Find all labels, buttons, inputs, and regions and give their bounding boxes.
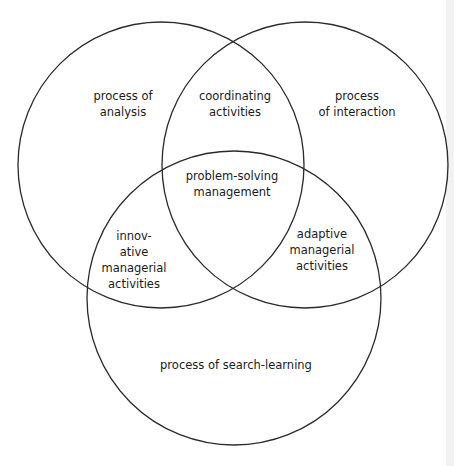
region-search-learning: process of search-learning xyxy=(160,357,312,373)
label-line: adaptive xyxy=(289,226,354,242)
label-line: managerial xyxy=(101,260,166,276)
region-innovative: innov- ative managerial activities xyxy=(101,228,166,292)
label-line: activities xyxy=(289,258,354,274)
label-line: ative xyxy=(101,244,166,260)
label-line: innov- xyxy=(101,228,166,244)
venn-diagram xyxy=(0,0,454,466)
label-line: coordinating xyxy=(199,88,271,104)
label-line: analysis xyxy=(94,104,153,120)
label-line: activities xyxy=(101,276,166,292)
label-line: problem-solving xyxy=(186,168,279,184)
label-line: activities xyxy=(199,104,271,120)
label-line: process of xyxy=(94,88,153,104)
label-line: process of search-learning xyxy=(160,357,312,373)
region-center: problem-solving management xyxy=(186,168,279,200)
label-line: process xyxy=(319,88,396,104)
label-line: management xyxy=(186,184,279,200)
label-line: of interaction xyxy=(319,104,396,120)
region-interaction: process of interaction xyxy=(319,88,396,120)
region-analysis: process of analysis xyxy=(94,88,153,120)
region-adaptive: adaptive managerial activities xyxy=(289,226,354,274)
label-line: managerial xyxy=(289,242,354,258)
region-coordinating: coordinating activities xyxy=(199,88,271,120)
